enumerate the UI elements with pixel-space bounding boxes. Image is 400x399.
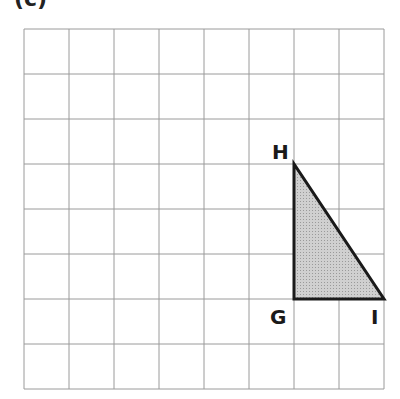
vertex-label-h: H [272,140,289,164]
vertex-label-i: I [371,305,378,329]
grid-diagram [0,0,400,399]
vertex-label-g: G [270,305,286,329]
square-grid [24,29,384,389]
